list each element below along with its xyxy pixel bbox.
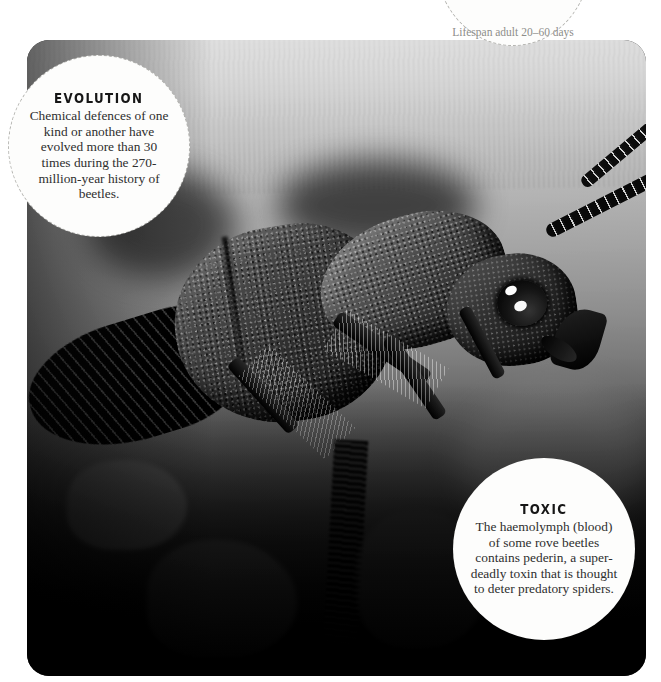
fact-evolution-heading: EVOLUTION (54, 90, 143, 106)
fact-page: Lifespan adult 20–60 days EVOLUTION Chem… (0, 0, 661, 682)
fact-bubble-toxic: TOXIC The haemolymph (blood) of some rov… (453, 458, 635, 640)
fact-toxic-heading: TOXIC (520, 501, 567, 517)
fact-toxic-body: The haemolymph (blood) of some rove beet… (463, 519, 625, 597)
fact-evolution-body: Chemical defences of one kind or another… (23, 108, 175, 202)
fact-bubble-evolution: EVOLUTION Chemical defences of one kind … (8, 55, 190, 237)
fact-lifespan-body: Lifespan adult 20–60 days (446, 26, 580, 39)
